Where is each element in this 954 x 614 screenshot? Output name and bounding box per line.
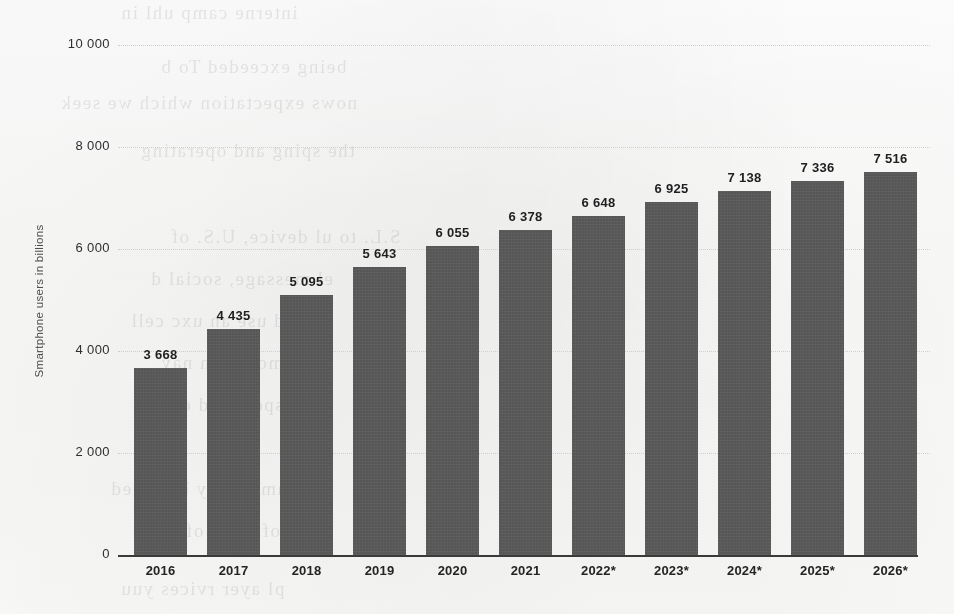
y-tick-label: 8 000	[0, 138, 110, 153]
y-tick-label: 0	[0, 546, 110, 561]
x-tick-label: 2026*	[846, 563, 936, 578]
y-tick-label: 6 000	[0, 240, 110, 255]
bar	[645, 202, 698, 555]
bar	[499, 230, 552, 555]
y-tick-label: 10 000	[0, 36, 110, 51]
bar-value-label: 4 435	[189, 308, 279, 323]
chart-screenshot: interne camp uhl in being exceeded To b …	[0, 0, 954, 614]
bar-value-label: 6 648	[554, 195, 644, 210]
bar-value-label: 3 668	[116, 347, 206, 362]
bar-value-label: 5 095	[262, 274, 352, 289]
bar	[791, 181, 844, 555]
bar	[572, 216, 625, 555]
y-tick-label: 4 000	[0, 342, 110, 357]
y-axis-title: Smartphone users in billions	[33, 176, 45, 426]
bar-value-label: 6 378	[481, 209, 571, 224]
bar	[280, 295, 333, 555]
bar-value-label: 6 055	[408, 225, 498, 240]
bar	[864, 172, 917, 555]
bar	[353, 267, 406, 555]
bar-value-label: 7 516	[846, 151, 936, 166]
bar-value-label: 5 643	[335, 246, 425, 261]
bar-chart: Smartphone users in billions 02 0004 000…	[0, 0, 954, 614]
bar	[207, 329, 260, 555]
bar	[426, 246, 479, 555]
gridline	[118, 45, 930, 46]
gridline	[118, 147, 930, 148]
bar	[718, 191, 771, 555]
x-axis-line	[118, 555, 918, 557]
bar	[134, 368, 187, 555]
y-tick-label: 2 000	[0, 444, 110, 459]
